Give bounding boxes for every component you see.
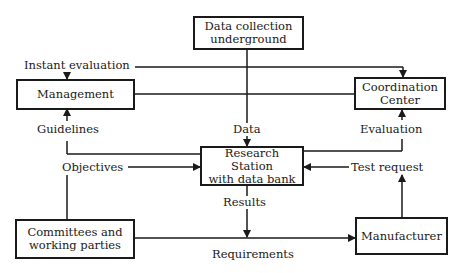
node-manufacturer: Manufacturer <box>355 217 448 255</box>
edge-label-objectives: Objectives <box>61 161 124 174</box>
edge-label-instant-evaluation: Instant evaluation <box>23 59 131 72</box>
edge-label-requirements: Requirements <box>211 248 295 261</box>
node-management: Management <box>16 79 135 110</box>
edge-label-guidelines: Guidelines <box>36 123 100 136</box>
node-coordination-center: Coordination Center <box>354 77 446 110</box>
edge-label-evaluation: Evaluation <box>359 123 423 136</box>
node-research-station: Research Station with data bank <box>200 146 304 186</box>
edge-label-results: Results <box>222 196 267 209</box>
edge-label-data: Data <box>232 123 262 136</box>
node-committees: Committees and working parties <box>15 219 135 259</box>
node-data-collection: Data collection underground <box>193 16 304 50</box>
edge-label-test-request: Test request <box>350 161 424 174</box>
